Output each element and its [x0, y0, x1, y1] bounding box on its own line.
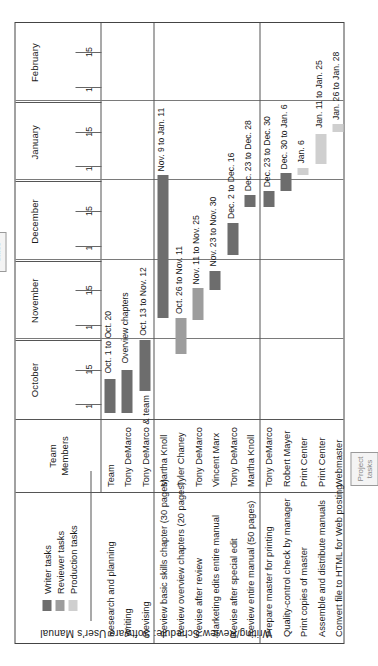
member-label: Tyler Chaney	[172, 432, 189, 487]
bar-date-label: Dec. 23 to Dec. 28	[242, 120, 252, 191]
month-label-october: October	[28, 341, 39, 419]
member-label: Martha Knoll	[154, 435, 171, 487]
task-label: Revise after special edit	[224, 538, 241, 637]
table-row[interactable]: Revise after review Tony DeMarco Nov. 11…	[189, 23, 206, 643]
bar-date-label: Dec. 23 to Dec. 30	[261, 116, 271, 187]
bar-date-label: Overview chapters	[119, 292, 129, 363]
bar-date-label: Jan. 11 to Jan. 25	[313, 60, 323, 128]
month-january: January 1 15	[15, 102, 101, 181]
month-december: December 1 15	[15, 181, 101, 260]
month-label-january: January	[28, 103, 39, 181]
gantt-bar[interactable]	[157, 175, 168, 318]
bar-track: Dec. 23 to Dec. 30	[260, 23, 277, 419]
callout-project-tasks: Project tasks	[350, 452, 378, 486]
gantt-bar[interactable]	[227, 223, 238, 255]
gantt-bar[interactable]	[263, 191, 274, 207]
bar-date-label: Oct. 26 to Nov. 11	[173, 246, 183, 314]
table-row[interactable]: Review overview chapters (20 pages) Tyle…	[172, 23, 189, 643]
table-row[interactable]: Research and planning Team Oct. 1 to Oct…	[101, 23, 118, 643]
month-february: February 1 15	[15, 23, 101, 102]
team-members-header: Team Members	[15, 420, 101, 492]
timeline-header: October 1 15 November 1 15 December 1	[15, 23, 101, 419]
team-members-header-line1: Team	[46, 444, 57, 467]
bar-date-label: Jan. 6	[295, 140, 305, 163]
team-members-header-line2: Members	[58, 436, 69, 476]
member-label: Tony DeMarco	[118, 427, 135, 487]
legend-label-reviewer: Reviewer tasks	[55, 531, 65, 594]
bar-track: Dec. 30 to Jan. 6	[277, 23, 294, 419]
bar-track: Dec. 23 to Dec. 28	[241, 23, 258, 419]
chart-legend: Writer tasks Reviewer tasks Production t…	[29, 471, 91, 621]
table-row[interactable]: Prepare master for printing Tony DeMarco…	[260, 23, 277, 643]
member-label: Team	[101, 464, 118, 487]
month-label-november: November	[28, 262, 39, 340]
month-october: October 1 15	[15, 340, 101, 419]
month-label-december: December	[28, 182, 39, 260]
legend-label-production: Production tasks	[68, 525, 78, 594]
gantt-bar[interactable]	[192, 288, 203, 320]
task-label: Prepare master for printing	[260, 526, 277, 637]
bar-track: Oct. 13 to Nov. 12	[136, 23, 153, 419]
table-row[interactable]: Print copies of master Print Center Jan.…	[294, 23, 311, 643]
gantt-bar[interactable]	[332, 124, 343, 132]
gantt-bar[interactable]	[175, 318, 186, 354]
table-row[interactable]: Review entire manual (50 pages) Martha K…	[241, 23, 259, 643]
bar-date-label: Oct. 1 to Oct. 20	[102, 311, 112, 374]
table-row[interactable]: Review basic skills chapter (30 pages) M…	[154, 23, 171, 643]
member-label: Tony DeMarco	[260, 427, 277, 487]
bar-track: Nov. 9 to Jan. 11	[154, 23, 171, 419]
month-label-february: February	[28, 23, 39, 102]
table-row[interactable]: Assemble and distribute manuals Print Ce…	[312, 23, 329, 643]
callout-due-dates: Due dates	[0, 232, 6, 272]
bar-track: Jan. 11 to Jan. 25	[312, 23, 329, 419]
member-label: Tony DeMarco	[224, 427, 241, 487]
bar-date-label: Dec. 2 to Dec. 16	[225, 153, 235, 219]
gantt-bar[interactable]	[121, 370, 132, 414]
task-rows: Research and planning Team Oct. 1 to Oct…	[101, 23, 343, 643]
member-label: Vincent Marx	[206, 433, 223, 487]
legend-swatch-reviewer	[55, 600, 64, 611]
table-row[interactable]: Convert file to HTML for Web posting Web…	[329, 23, 346, 643]
bar-date-label: Nov. 9 to Jan. 11	[155, 108, 165, 172]
chart-frame: Writer tasks Reviewer tasks Production t…	[14, 22, 344, 644]
gantt-bar[interactable]	[297, 168, 308, 176]
task-label: Revise after review	[189, 558, 206, 637]
member-label: Webmaster	[329, 440, 346, 487]
gantt-bar[interactable]	[280, 174, 291, 192]
bar-track: Jan. 6	[294, 23, 311, 419]
task-label: Convert file to HTML for Web posting	[329, 485, 346, 637]
gantt-bar[interactable]	[244, 195, 255, 207]
bar-track: Nov. 23 to Nov. 30	[206, 23, 223, 419]
bar-date-label: Nov. 11 to Nov. 25	[190, 215, 200, 284]
bar-track: Jan. 26 to Jan. 28	[329, 23, 346, 419]
task-label: Quality-control check by manager	[277, 499, 294, 637]
bar-track: Oct. 26 to Nov. 11	[172, 23, 189, 419]
task-label: Print copies of master	[294, 547, 311, 637]
task-label: Research and planning	[101, 541, 118, 637]
bar-date-label: Dec. 30 to Jan. 6	[278, 105, 288, 170]
gantt-bar[interactable]	[139, 340, 150, 391]
task-label: Revising	[136, 601, 153, 637]
bar-track: Dec. 2 to Dec. 16	[224, 23, 241, 419]
table-row[interactable]: Writing Tony DeMarco Overview chapters	[118, 23, 135, 643]
member-label: Print Center	[294, 437, 311, 487]
table-row[interactable]: Marketing edits entire manual Vincent Ma…	[206, 23, 223, 643]
gantt-bar[interactable]	[209, 271, 220, 291]
table-row[interactable]: Revise after special edit Tony DeMarco D…	[224, 23, 241, 643]
bar-track: Oct. 1 to Oct. 20	[101, 23, 118, 419]
bar-track: Nov. 11 to Nov. 25	[189, 23, 206, 419]
task-label: Writing	[118, 608, 135, 637]
table-row[interactable]: Revising Tony DeMarco & team Oct. 13 to …	[136, 23, 154, 643]
bar-track: Overview chapters	[118, 23, 135, 419]
gantt-bar[interactable]	[104, 379, 115, 413]
member-label: Print Center	[312, 437, 329, 487]
member-label: Tony DeMarco	[189, 427, 206, 487]
gantt-bar[interactable]	[315, 134, 326, 164]
month-november: November 1 15	[15, 261, 101, 340]
legend-label-writer: Writer tasks	[42, 545, 52, 594]
bar-date-label: Oct. 13 to Nov. 12	[137, 267, 147, 336]
table-row[interactable]: Quality-control check by manager Robert …	[277, 23, 294, 643]
member-label: Martha Knoll	[241, 435, 258, 487]
